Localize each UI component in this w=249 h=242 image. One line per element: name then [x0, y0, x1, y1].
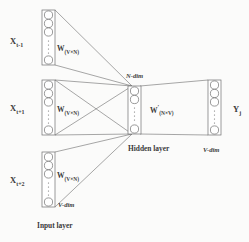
input-dim-label: V-dim — [58, 202, 75, 209]
neuron — [130, 95, 138, 103]
connector-mid-lower — [55, 134, 132, 135]
neuron — [44, 56, 52, 64]
output-layer-block[interactable] — [208, 80, 221, 135]
neuron — [44, 11, 52, 19]
neuron — [130, 125, 138, 133]
weight-label-top-sub: (V×N) — [65, 49, 79, 55]
weight-label-bottom-sub: (V×N) — [65, 176, 79, 182]
hidden-layer-block[interactable] — [128, 86, 141, 134]
input-label-bottom-sub: t+2 — [16, 181, 24, 187]
weight-label-top: W(V×N) — [57, 45, 79, 55]
weight-label-middle-sub: (V×N) — [65, 110, 79, 116]
connector-bot-lower — [55, 134, 132, 207]
input-block-middle[interactable] — [42, 80, 55, 135]
neuron — [210, 98, 218, 106]
input-label-top-sub: t-1 — [16, 42, 23, 48]
weight-label-middle-var: W — [57, 105, 65, 114]
neuron — [210, 126, 218, 134]
output-label-sub: j — [239, 110, 241, 116]
connector-group-bottom-input — [55, 134, 132, 207]
weight-label-output-sub: (N×V) — [159, 110, 173, 116]
neuron — [44, 98, 52, 106]
neuron — [130, 87, 138, 95]
weight-label-bottom-var: W — [57, 171, 65, 180]
neural-network-diagram: Xt-1 Xt+1 Xt+2 W(V×N) W(V×N) W(V×N) W′(N… — [0, 0, 249, 242]
neuron — [210, 89, 218, 97]
weight-label-output: W′(N×V) — [150, 104, 174, 116]
neuron — [44, 161, 52, 169]
weight-label-bottom: W(V×N) — [57, 172, 79, 182]
input-label-middle: Xt+1 — [10, 104, 25, 115]
input-label-bottom: Xt+2 — [10, 176, 25, 187]
neuron — [44, 81, 52, 89]
hidden-dim-label: N-dim — [126, 73, 143, 80]
connector-out-lower — [140, 134, 208, 135]
neuron — [44, 153, 52, 161]
input-label-middle-sub: t+1 — [16, 109, 24, 115]
output-dim-label: V-dim — [203, 147, 220, 154]
weight-label-output-var: W — [150, 106, 158, 115]
diagram-canvas — [0, 0, 249, 242]
neuron — [44, 28, 52, 36]
input-layer-caption: Input layer — [37, 222, 73, 229]
weight-label-middle: W(V×N) — [57, 106, 79, 116]
connector-bot-upper — [55, 134, 132, 152]
neuron — [44, 89, 52, 97]
neuron — [44, 126, 52, 134]
neuron — [210, 81, 218, 89]
output-label: Yj — [233, 105, 241, 116]
hidden-layer-caption: Hidden layer — [128, 145, 169, 152]
neuron — [44, 19, 52, 27]
input-block-top[interactable] — [42, 10, 55, 65]
input-block-bottom[interactable] — [42, 152, 55, 207]
neuron — [44, 170, 52, 178]
neuron — [44, 198, 52, 206]
input-label-top: Xt-1 — [10, 37, 23, 48]
weight-label-top-var: W — [57, 44, 65, 53]
connector-out-upper — [140, 80, 208, 86]
